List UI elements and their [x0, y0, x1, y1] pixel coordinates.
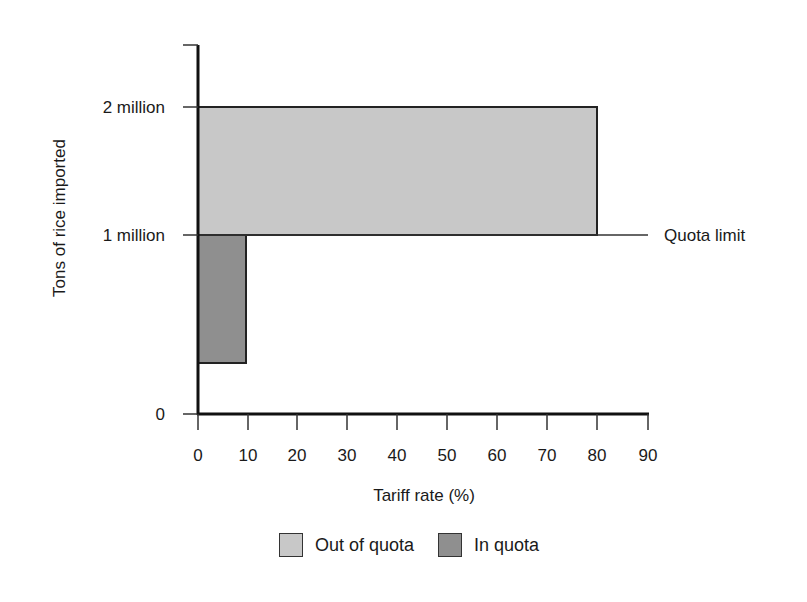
x-axis-title: Tariff rate (%)	[373, 486, 475, 505]
quota-limit-label: Quota limit	[664, 226, 746, 245]
legend-item-in-quota: In quota	[438, 533, 539, 557]
bar-out-of-quota	[198, 107, 597, 235]
svg-text:60: 60	[488, 446, 507, 465]
svg-text:80: 80	[588, 446, 607, 465]
svg-text:10: 10	[239, 446, 258, 465]
svg-text:70: 70	[538, 446, 557, 465]
legend: Out of quota In quota	[279, 533, 553, 557]
svg-text:90: 90	[639, 446, 658, 465]
legend-item-out-of-quota: Out of quota	[279, 533, 414, 557]
legend-label: Out of quota	[315, 535, 414, 556]
legend-swatch-in-quota	[438, 533, 462, 557]
x-ticks	[198, 414, 648, 430]
svg-text:30: 30	[338, 446, 357, 465]
bar-in-quota	[198, 235, 246, 363]
legend-swatch-out-of-quota	[279, 533, 303, 557]
y-tick-label-1m: 1 million	[103, 226, 165, 245]
svg-text:50: 50	[438, 446, 457, 465]
svg-text:20: 20	[288, 446, 307, 465]
y-axis-title: Tons of rice imported	[50, 139, 69, 297]
svg-text:40: 40	[388, 446, 407, 465]
chart-canvas: 2 million 1 million 0 0 10 20 30 40 50 6…	[0, 0, 807, 602]
y-tick-label-0: 0	[156, 405, 165, 424]
y-tick-label-2m: 2 million	[103, 98, 165, 117]
legend-label: In quota	[474, 535, 539, 556]
svg-text:0: 0	[193, 446, 202, 465]
x-tick-labels: 0 10 20 30 40 50 60 70 80 90	[193, 446, 657, 465]
